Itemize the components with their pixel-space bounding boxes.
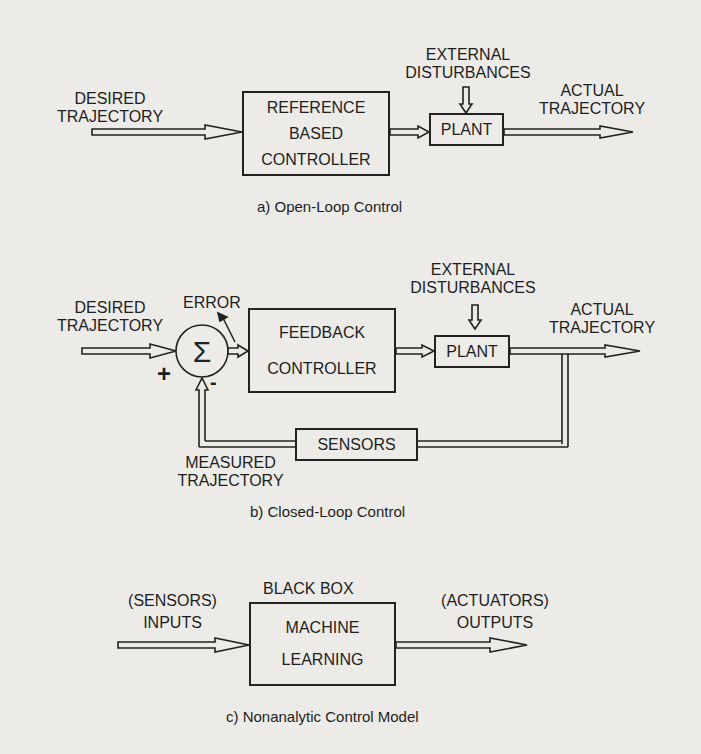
plus-sign: +	[157, 365, 171, 383]
b-disturbance-label: EXTERNAL DISTURBANCES	[403, 261, 543, 297]
feedback-controller-box: FEEDBACK CONTROLLER	[248, 308, 396, 393]
b-plant-box: PLANT	[434, 335, 510, 368]
a-output-label: ACTUAL TRAJECTORY	[527, 82, 657, 118]
measured-trajectory-label: MEASURED TRAJECTORY	[163, 454, 298, 490]
b-input-label: DESIRED TRAJECTORY	[45, 299, 175, 335]
caption-a: a) Open-Loop Control	[257, 198, 402, 215]
black-box-label: BLACK BOX	[263, 580, 354, 598]
caption-b: b) Closed-Loop Control	[250, 503, 405, 520]
minus-sign: -	[210, 373, 217, 391]
error-label: ERROR	[183, 294, 241, 312]
a-input-label: DESIRED TRAJECTORY	[45, 90, 175, 126]
a-disturbance-label: EXTERNAL DISTURBANCES	[398, 46, 538, 82]
c-output-label: (ACTUATORS) OUTPUTS	[425, 590, 565, 634]
machine-learning-box: MACHINE LEARNING	[249, 602, 396, 686]
caption-c: c) Nonanalytic Control Model	[226, 708, 419, 725]
a-plant-box: PLANT	[429, 113, 504, 146]
b-output-label: ACTUAL TRAJECTORY	[532, 301, 672, 337]
sum-symbol: Σ	[193, 335, 212, 368]
sensors-box: SENSORS	[295, 428, 418, 461]
reference-based-controller-box: REFERENCE BASED CONTROLLER	[242, 91, 390, 176]
c-input-label: (SENSORS) INPUTS	[110, 590, 235, 634]
